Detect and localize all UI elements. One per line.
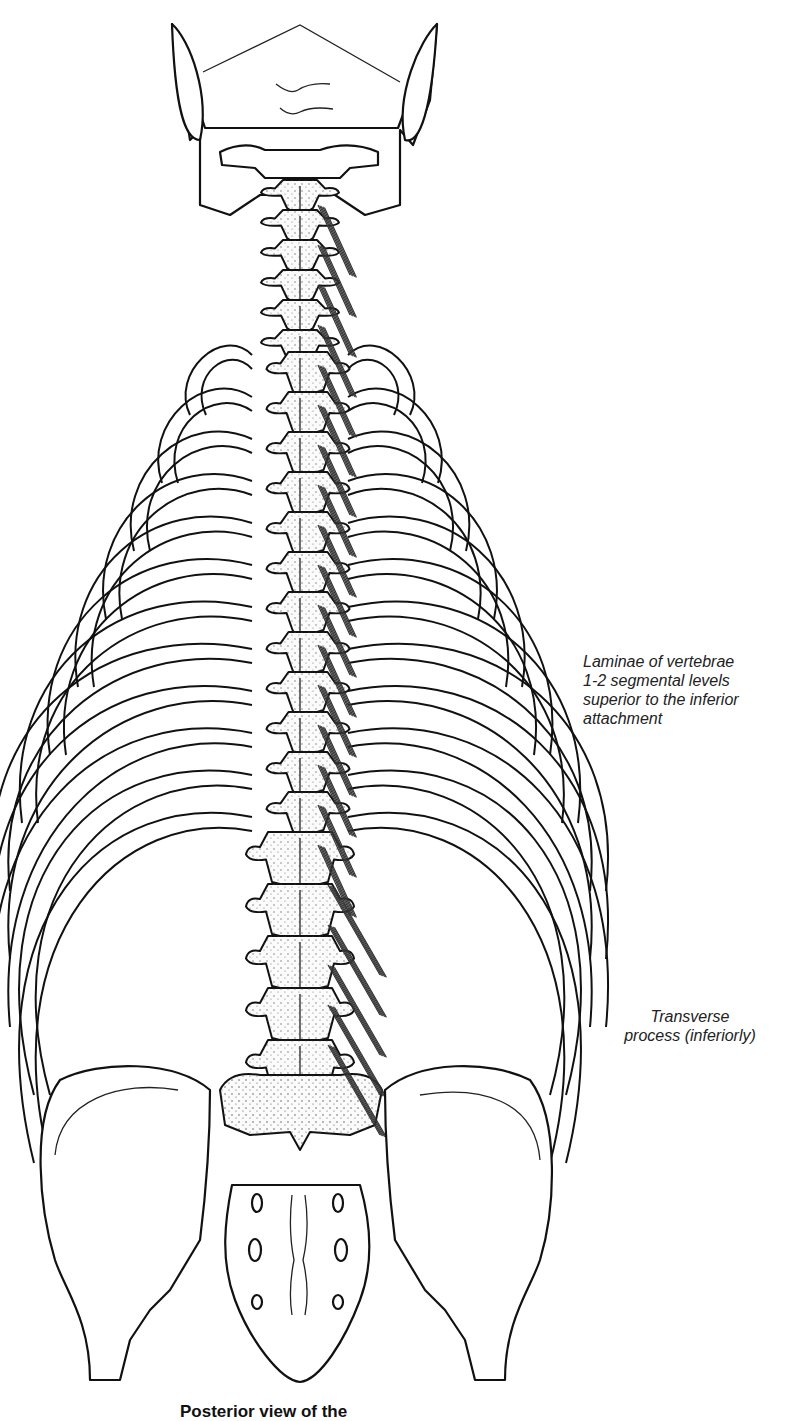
rib-r-3-inner-edge bbox=[348, 446, 453, 551]
vertebra-21 bbox=[246, 936, 354, 992]
rib-l-2-inner-edge bbox=[174, 403, 252, 483]
label-laminae-attachment: Laminae of vertebrae 1-2 segmental level… bbox=[583, 652, 739, 728]
rib-l-8-inner-edge bbox=[8, 659, 252, 891]
rib-r-11 bbox=[348, 771, 581, 1095]
rib-l-4-inner-edge bbox=[119, 489, 252, 619]
label-transverse-process: Transverse process (inferiorly) bbox=[590, 1007, 790, 1045]
rib-l-3-inner-edge bbox=[147, 446, 252, 551]
rib-r-2-inner-edge bbox=[348, 403, 426, 483]
rib-r-4-inner-edge bbox=[348, 489, 481, 619]
muscle-fiber-bundle bbox=[318, 205, 356, 277]
rib-r-2 bbox=[348, 389, 442, 483]
rib-r-7-inner-edge bbox=[348, 616, 564, 823]
rib-l-2 bbox=[158, 389, 252, 483]
rib-l-11-inner-edge bbox=[36, 786, 252, 1095]
vertebral-column bbox=[220, 180, 382, 1150]
rib-l-11 bbox=[19, 771, 252, 1095]
rib-r-10 bbox=[348, 728, 608, 1027]
rib-r-8-inner-edge bbox=[348, 659, 592, 891]
figure-caption: Posterior view of the bbox=[180, 1402, 347, 1421]
rib-l-7-inner-edge bbox=[36, 616, 252, 823]
